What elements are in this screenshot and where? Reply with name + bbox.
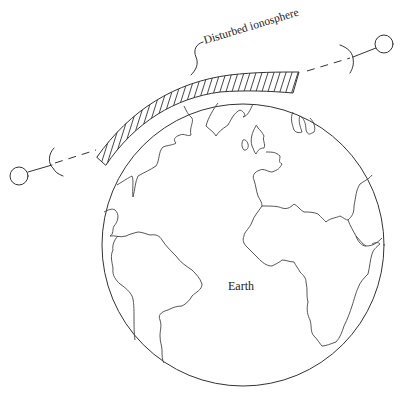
- hatch-line: [132, 60, 170, 180]
- hatch-line: [156, 60, 194, 180]
- hatch-line: [234, 60, 272, 180]
- earth-label: Earth: [228, 279, 254, 293]
- hatch-line: [114, 60, 152, 180]
- hatch-line: [288, 60, 326, 180]
- hatch-line: [168, 60, 206, 180]
- greenland-coast: [206, 103, 253, 136]
- hatch-line: [102, 60, 140, 180]
- hatch-line: [204, 60, 242, 180]
- hatch-line: [36, 60, 74, 180]
- label-leader-line: [191, 42, 203, 75]
- middle-east-coast: [348, 220, 382, 246]
- hatch-line: [120, 60, 158, 180]
- right-station: [340, 35, 393, 73]
- right-radio-path: [307, 58, 350, 71]
- hatch-line: [174, 60, 212, 180]
- hatch-line: [162, 60, 200, 180]
- hatch-line: [96, 60, 134, 180]
- europe-coast: [253, 152, 372, 222]
- hatch-line: [72, 60, 110, 180]
- hatch-line: [270, 60, 308, 180]
- left-station-node-icon: [10, 167, 28, 185]
- south-america-coast: [111, 235, 202, 363]
- hatch-line: [228, 60, 266, 180]
- hatch-line: [138, 60, 176, 180]
- hatch-line: [246, 60, 284, 180]
- hatch-line: [186, 60, 224, 180]
- hatch-line: [78, 60, 116, 180]
- earth-outline: [102, 104, 384, 386]
- left-radio-path: [55, 150, 96, 163]
- hatch-line: [252, 60, 290, 180]
- hatch-line: [60, 60, 98, 180]
- right-station-mast: [353, 48, 376, 57]
- hatch-line: [30, 60, 68, 180]
- hatch-line: [108, 60, 146, 180]
- ionosphere-diagram: Disturbed ionosphere Earth: [0, 0, 400, 398]
- british-isles-coast: [251, 125, 264, 154]
- diagram-canvas: Disturbed ionosphere Earth: [0, 0, 400, 398]
- hatch-line: [264, 60, 302, 180]
- scandinavia-coast: [291, 112, 314, 134]
- left-station-mast: [28, 165, 52, 172]
- hatch-line: [258, 60, 296, 180]
- hatch-line: [150, 60, 188, 180]
- hatch-line: [210, 60, 248, 180]
- left-dish-antenna-icon: [49, 148, 63, 176]
- hatch-line: [240, 60, 278, 180]
- hatch-line: [42, 60, 80, 180]
- ireland-coast: [242, 140, 248, 150]
- earth-globe: Earth: [102, 103, 384, 386]
- north-america-coast: [117, 106, 192, 197]
- left-station: [10, 148, 63, 185]
- central-america-coast: [104, 209, 150, 237]
- hatch-line: [222, 60, 260, 180]
- hatch-line: [282, 60, 320, 180]
- hatch-line: [216, 60, 254, 180]
- hatch-line: [90, 60, 128, 180]
- ionosphere-label: Disturbed ionosphere: [202, 6, 300, 47]
- right-dish-antenna-icon: [340, 45, 353, 73]
- hatch-line: [126, 60, 164, 180]
- right-station-node-icon: [375, 35, 393, 53]
- hatch-line: [48, 60, 86, 180]
- hatch-line: [66, 60, 104, 180]
